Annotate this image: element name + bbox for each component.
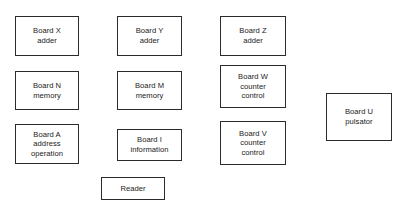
board-v-counter-control-box: Board Vcountercontrol — [220, 121, 286, 165]
board-y-adder-label-line-2: adder — [140, 36, 160, 46]
board-i-information-box: Board Iinformation — [117, 129, 182, 161]
board-i-information-label-line-2: information — [130, 145, 168, 155]
board-u-pulsator-label-line-2: pulsator — [345, 117, 372, 127]
board-x-adder-label-line-1: Board X — [33, 26, 61, 36]
board-z-adder-label-line-2: adder — [243, 36, 263, 46]
board-v-counter-control-label-line-1: Board V — [239, 129, 267, 139]
board-a-address-operation-label-line-2: address — [33, 139, 60, 149]
board-w-counter-control-label-line-3: control — [241, 91, 264, 101]
board-i-information-label-line-1: Board I — [137, 135, 162, 145]
board-u-pulsator-box: Board Upulsator — [326, 93, 392, 141]
board-a-address-operation-label-line-1: Board A — [33, 130, 60, 140]
reader-label-line-1: Reader — [120, 184, 145, 194]
board-w-counter-control-label-line-2: counter — [240, 82, 266, 92]
board-diagram-canvas: Board XadderBoard YadderBoard ZadderBoar… — [0, 0, 403, 211]
board-w-counter-control-label-line-1: Board W — [238, 72, 268, 82]
board-w-counter-control-box: Board Wcountercontrol — [220, 65, 286, 108]
board-x-adder-box: Board Xadder — [15, 16, 79, 56]
board-a-address-operation-label-line-3: operation — [31, 149, 63, 159]
board-m-memory-label-line-2: memory — [136, 91, 164, 101]
board-z-adder-label-line-1: Board Z — [239, 26, 266, 36]
board-n-memory-box: Board Nmemory — [15, 71, 79, 110]
board-m-memory-box: Board Mmemory — [117, 71, 182, 110]
board-m-memory-label-line-1: Board M — [135, 81, 164, 91]
board-x-adder-label-line-2: adder — [37, 36, 57, 46]
board-n-memory-label-line-1: Board N — [33, 81, 61, 91]
board-y-adder-box: Board Yadder — [117, 16, 182, 56]
board-n-memory-label-line-2: memory — [33, 91, 61, 101]
reader-box: Reader — [101, 177, 165, 200]
board-u-pulsator-label-line-1: Board U — [345, 107, 373, 117]
board-a-address-operation-box: Board Aaddressoperation — [15, 124, 79, 164]
board-v-counter-control-label-line-3: control — [241, 148, 264, 158]
board-v-counter-control-label-line-2: counter — [240, 138, 266, 148]
board-y-adder-label-line-1: Board Y — [136, 26, 164, 36]
board-z-adder-box: Board Zadder — [220, 16, 286, 56]
